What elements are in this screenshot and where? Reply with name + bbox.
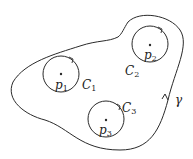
label-c3: C3 bbox=[122, 101, 136, 116]
label-p2: p2 bbox=[144, 48, 157, 63]
point-p2 bbox=[149, 44, 151, 46]
label-p1: p1 bbox=[55, 78, 68, 93]
gamma-contour bbox=[11, 15, 183, 150]
label-c1: C1 bbox=[82, 78, 96, 93]
point-p3 bbox=[105, 119, 107, 121]
label-p3: p3 bbox=[99, 123, 112, 138]
label-gamma: γ bbox=[175, 93, 183, 107]
contour-diagram: p1 C1 p2 C2 p3 C3 γ bbox=[0, 0, 193, 159]
gamma-arrow-icon bbox=[162, 94, 168, 100]
label-c2: C2 bbox=[125, 64, 139, 79]
point-p1 bbox=[60, 73, 62, 75]
